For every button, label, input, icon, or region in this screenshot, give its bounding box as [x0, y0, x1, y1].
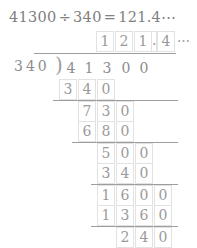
equation-ellipsis: ⋯ — [161, 9, 176, 25]
table-row: 0 — [97, 79, 115, 100]
equation-line: 41300÷340=121.4⋯ — [9, 9, 176, 25]
table-row: 0 — [135, 163, 153, 184]
table-row: 6 — [135, 205, 153, 226]
divisor-digit-3: 0 — [38, 58, 50, 74]
divisor-digits: 340 — [14, 58, 50, 74]
table-row: 4 — [78, 79, 96, 100]
quotient-ellipsis: ⋯ — [177, 33, 191, 48]
dividend-digit-5: 0 — [135, 58, 153, 79]
table-row: 3 — [97, 101, 115, 122]
table-row: 0 — [116, 101, 134, 122]
table-row: 6 — [78, 121, 96, 142]
table-row: 0 — [154, 227, 172, 248]
table-row: 8 — [97, 121, 115, 142]
table-row: 3 — [59, 79, 77, 100]
table-row: 3 — [116, 205, 134, 226]
table-row: 2 — [116, 227, 134, 248]
dividend-digit-1: 4 — [62, 58, 80, 79]
table-row: 4 — [116, 163, 134, 184]
table-row: 3 — [97, 163, 115, 184]
table-row: 0 — [116, 143, 134, 164]
table-row: 0 — [154, 185, 172, 206]
divide-icon: ÷ — [57, 9, 73, 25]
dividend-digit-2: 1 — [80, 58, 98, 79]
table-row: 0 — [135, 143, 153, 164]
equals-icon: = — [102, 9, 118, 25]
equation-divisor: 340 — [73, 9, 102, 25]
table-row: 0 — [116, 121, 134, 142]
dividend-digit-3: 3 — [98, 58, 116, 79]
equation-result: 121.4 — [118, 9, 161, 25]
table-row: 0 — [135, 185, 153, 206]
table-row: 6 — [116, 185, 134, 206]
quotient-digit-4: 4 — [157, 31, 175, 52]
table-row: 1 — [97, 185, 115, 206]
quotient-digit-2: 2 — [115, 31, 133, 52]
equation-dividend: 41300 — [9, 9, 57, 25]
divisor-digit-2: 4 — [26, 58, 38, 74]
table-row: 4 — [135, 227, 153, 248]
quotient-digit-3: 1 — [134, 31, 152, 52]
dividend-digit-4: 0 — [117, 58, 135, 79]
divisor-digit-1: 3 — [14, 58, 26, 74]
table-row: 1 — [97, 205, 115, 226]
table-row: 0 — [154, 205, 172, 226]
table-row: 7 — [78, 101, 96, 122]
table-row: 5 — [97, 143, 115, 164]
quotient-digit-1: 1 — [96, 31, 114, 52]
